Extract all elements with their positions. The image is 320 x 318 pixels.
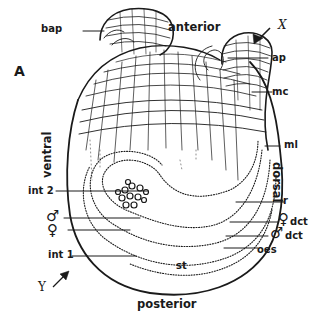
label-r: r <box>283 196 288 206</box>
ventral-label: ventral <box>42 132 54 178</box>
label-ap: ap <box>272 53 286 63</box>
label-st: st <box>176 261 187 271</box>
panel-label: A <box>14 64 25 78</box>
label-bap: bap <box>41 24 62 34</box>
label-male-dct: dct <box>285 231 303 241</box>
label-mc: mc <box>272 87 288 97</box>
label-int1: int 1 <box>48 250 74 260</box>
anatomical-figure: A anterior posterior ventral dorsal X Y … <box>0 0 320 318</box>
label-ml: ml <box>284 140 298 150</box>
anterior-label: anterior <box>168 22 220 34</box>
label-int2: int 2 <box>28 186 54 196</box>
label-female-dct: dct <box>290 217 308 227</box>
posterior-label: posterior <box>137 299 196 311</box>
label-oes: oes <box>257 245 277 255</box>
view-arrow-y-label: Y <box>38 281 46 293</box>
dorsal-label: dorsal <box>271 162 283 202</box>
female-symbol-label: ♀ <box>47 223 58 238</box>
male-dct-symbol: ♂ <box>270 226 283 241</box>
view-arrow-x-label: X <box>278 19 287 31</box>
